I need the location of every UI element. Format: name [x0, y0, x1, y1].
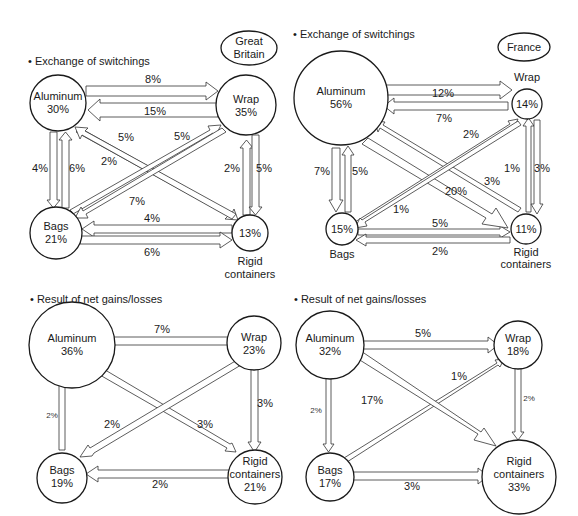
- flow-label-rigid-to-bags: 4%: [144, 212, 160, 224]
- node-rigid-name-line2: containers: [225, 268, 276, 280]
- node-aluminum-name: Aluminum: [48, 332, 97, 344]
- flow-label-al-to-bags: 7%: [314, 165, 330, 177]
- flow-label-rigid-to-bags: 2%: [432, 245, 448, 257]
- flow-label-wrap-to-rigid: 5%: [256, 162, 272, 174]
- panel-fr-net: • Result of net gains/losses Aluminum 32…: [294, 293, 556, 514]
- flow-label-wrap-to-al: 15%: [144, 105, 166, 117]
- node-aluminum-value: 32%: [319, 345, 341, 357]
- flow-label-wrap-to-bags: 7%: [129, 195, 145, 207]
- node-aluminum-name: Aluminum: [306, 332, 355, 344]
- node-wrap-value: 18%: [507, 345, 529, 357]
- country-label-line2: Britain: [233, 48, 264, 60]
- flow-label-al-to-rigid: 17%: [361, 394, 383, 406]
- panel-gb-exchange: • Exchange of switchings Great Britain: [28, 31, 277, 280]
- section-title: • Result of net gains/losses: [294, 293, 427, 305]
- arrow-al-to-wrap: [358, 337, 498, 353]
- arrow-al-to-bags: [323, 372, 334, 452]
- flow-label-wrap-to-al: 7%: [436, 112, 452, 124]
- node-rigid-name-line1: Rigid: [506, 455, 531, 467]
- flow-label-bags-to-al: 5%: [352, 165, 368, 177]
- node-rigid-name-line2: containers: [501, 258, 552, 270]
- flow-label-al-to-bags: 4%: [32, 162, 48, 174]
- flow-label-al-to-wrap: 8%: [145, 73, 161, 85]
- flow-label-bags-to-al: 2%: [46, 411, 58, 420]
- node-bags-value: 17%: [319, 477, 341, 489]
- node-aluminum-name: Aluminum: [317, 85, 366, 97]
- arrow-al-to-bags: [47, 132, 60, 208]
- flow-label-al-to-rigid: 5%: [118, 131, 134, 143]
- flow-label-al-to-wrap: 5%: [415, 327, 431, 339]
- node-rigid-name-line2: containers: [494, 468, 545, 480]
- flow-label-bags-to-rigid: 5%: [432, 217, 448, 229]
- node-wrap-value: 35%: [235, 106, 257, 118]
- node-wrap-name: Wrap: [514, 71, 540, 83]
- node-wrap-name: Wrap: [505, 332, 531, 344]
- flow-label-al-to-rigid: 3%: [197, 418, 213, 430]
- arrow-al-to-bags: [329, 148, 343, 212]
- arrow-rigid-to-wrap: [523, 118, 534, 212]
- arrow-wrap-to-al: [96, 333, 232, 349]
- section-title: • Exchange of switchings: [293, 28, 415, 40]
- node-bags-name: Bags: [43, 220, 69, 232]
- node-bags-name: Bags: [317, 464, 343, 476]
- flow-label-bags-to-wrap: 2%: [463, 128, 479, 140]
- packaging-switching-diagrams: • Exchange of switchings Great Britain: [0, 0, 578, 516]
- arrow-wrap-to-rigid: [512, 368, 524, 440]
- flow-label-bags-to-rigid: 3%: [404, 480, 420, 492]
- node-rigid-value: 33%: [508, 481, 530, 493]
- flow-label-al-to-bags: 2%: [310, 406, 322, 415]
- flow-label-wrap-to-al: 7%: [154, 323, 170, 335]
- flow-label-bags-to-al: 6%: [69, 162, 85, 174]
- flow-label-rigid-to-al: 3%: [484, 175, 500, 187]
- flow-label-wrap-to-bags: 1%: [393, 203, 409, 215]
- node-rigid-name-line2: containers: [230, 468, 281, 480]
- node-wrap-name: Wrap: [241, 331, 267, 343]
- node-wrap: [227, 316, 281, 370]
- panel-fr-exchange: • Exchange of switchings France: [293, 28, 552, 270]
- node-bags-value: 19%: [51, 477, 73, 489]
- flow-label-bags-to-rigid: 6%: [144, 246, 160, 258]
- flow-label-al-to-rigid: 20%: [445, 185, 467, 197]
- arrow-bags-to-wrap: [344, 359, 504, 462]
- country-label-line1: Great: [235, 35, 263, 47]
- node-wrap: [216, 75, 276, 135]
- flow-label-al-to-wrap: 12%: [432, 87, 454, 99]
- node-rigid-name-line1: Rigid: [242, 455, 267, 467]
- node-bags-value: 15%: [331, 223, 353, 235]
- node-bags-value: 21%: [45, 233, 67, 245]
- node-bags-name: Bags: [49, 464, 75, 476]
- section-title: • Exchange of switchings: [28, 55, 150, 67]
- country-label: France: [507, 41, 541, 53]
- section-title: • Result of net gains/losses: [30, 293, 163, 305]
- node-wrap-value: 14%: [516, 98, 538, 110]
- flow-label-bags-to-wrap: 1%: [451, 370, 467, 382]
- flow-label-wrap-to-bags: 2%: [104, 418, 120, 430]
- node-rigid-value: 13%: [239, 227, 261, 239]
- flow-label-rigid-to-wrap: 1%: [504, 162, 520, 174]
- flow-label-wrap-to-rigid: 2%: [523, 394, 535, 403]
- node-rigid-name-line1: Rigid: [237, 255, 262, 267]
- node-rigid-name-line1: Rigid: [513, 246, 538, 258]
- flow-label-rigid-to-al: 2%: [101, 155, 117, 167]
- node-aluminum-name: Aluminum: [34, 90, 83, 102]
- node-bags-name: Bags: [329, 248, 355, 260]
- node-aluminum-value: 36%: [61, 345, 83, 357]
- arrow-wrap-to-rigid: [248, 369, 261, 452]
- node-wrap-value: 23%: [243, 344, 265, 356]
- node-rigid-value: 21%: [244, 481, 266, 493]
- flow-label-bags-to-wrap: 5%: [174, 130, 190, 142]
- flow-label-wrap-to-rigid: 3%: [257, 397, 273, 409]
- node-wrap-name: Wrap: [233, 93, 259, 105]
- arrow-bags-to-al: [342, 146, 354, 212]
- flow-label-wrap-to-rigid: 3%: [534, 162, 550, 174]
- node-aluminum-value: 30%: [47, 103, 69, 115]
- arrow-rigid-to-wrap: [240, 140, 253, 215]
- flow-label-rigid-to-wrap: 2%: [224, 162, 240, 174]
- panel-gb-net: • Result of net gains/losses Aluminum 36…: [29, 293, 282, 504]
- node-rigid-value: 11%: [515, 223, 536, 235]
- node-aluminum-value: 56%: [330, 98, 352, 110]
- flow-label-rigid-to-bags: 2%: [152, 478, 168, 490]
